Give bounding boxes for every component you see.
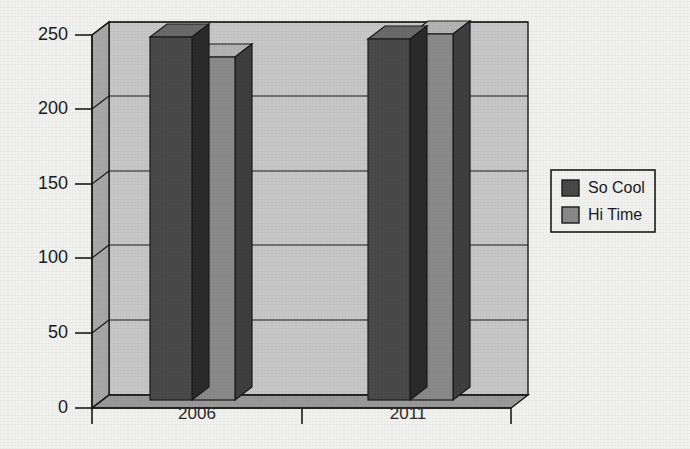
legend: So Cool Hi Time [551,170,655,232]
x-tick-label: 2006 [178,404,216,423]
chart-canvas: 250 200 150 100 50 0 [0,0,690,449]
x-tick-label: 2011 [390,404,427,423]
legend-label: Hi Time [588,206,642,223]
bar-2011-so-cool[interactable] [368,26,427,400]
y-tick-label: 200 [38,98,68,118]
bar-2006-so-cool[interactable] [150,24,209,400]
y-tick-label: 150 [38,173,68,193]
y-tick-label: 250 [38,24,68,44]
legend-swatch-icon [562,207,579,223]
legend-label: So Cool [588,179,645,196]
y-tick-label: 50 [48,322,68,342]
legend-item-hi-time[interactable]: Hi Time [562,206,642,223]
y-tick-label: 0 [58,397,68,417]
y-tick-label: 100 [38,247,68,267]
legend-item-so-cool[interactable]: So Cool [562,179,645,196]
plot-left-wall [92,22,109,408]
bar-chart-3d: 250 200 150 100 50 0 [0,0,690,449]
legend-swatch-icon [562,180,579,196]
